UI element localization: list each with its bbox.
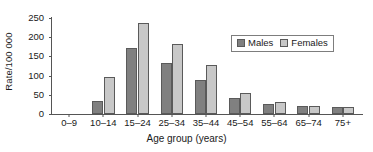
y-axis-tick-label: 0: [0, 109, 44, 119]
bar-males: [229, 98, 240, 114]
y-axis-tick-mark: [49, 95, 52, 96]
bar-males: [263, 104, 274, 114]
bar-males: [332, 107, 343, 114]
x-axis-tick-label: 25–34: [159, 118, 185, 128]
bar-chart-figure: Rate/100 000 050100150200250 Age group (…: [0, 0, 373, 152]
plot-area: 050100150200250: [52, 18, 360, 114]
bar-females: [172, 44, 183, 114]
bar-females: [206, 65, 217, 114]
legend-swatch-males-icon: [237, 39, 245, 47]
legend-label-females: Females: [291, 38, 327, 48]
y-axis-tick-mark: [49, 114, 52, 115]
legend-entry-females: Females: [280, 38, 327, 48]
bar-males: [195, 80, 206, 114]
x-axis-line: [51, 114, 363, 115]
y-axis-tick-mark: [49, 18, 52, 19]
bar-females: [309, 106, 320, 114]
x-axis-tick-label: 10–14: [90, 118, 116, 128]
y-axis-tick-label: 200: [0, 32, 44, 42]
y-axis-tick-label: 100: [0, 71, 44, 81]
x-axis-tick-label: 0–9: [61, 118, 77, 128]
bar-females: [240, 93, 251, 114]
bar-males: [297, 106, 308, 114]
x-axis-tick-label: 65–74: [295, 118, 321, 128]
x-axis-tick-label: 35–44: [193, 118, 219, 128]
x-axis-tick-label: 55–64: [261, 118, 287, 128]
bar-females: [343, 107, 354, 114]
x-axis-tick-label: 45–54: [227, 118, 253, 128]
x-axis-tick-label: 15–24: [124, 118, 150, 128]
y-axis-tick-label: 50: [0, 90, 44, 100]
x-axis-label: Age group (years): [0, 133, 373, 144]
x-axis-tick-label: 75+: [335, 118, 351, 128]
y-axis-tick-label: 250: [0, 13, 44, 23]
y-axis-tick-label: 150: [0, 52, 44, 62]
legend-entry-males: Males: [237, 38, 273, 48]
bar-females: [104, 77, 115, 114]
bar-males: [161, 63, 172, 114]
y-axis-tick-mark: [49, 76, 52, 77]
chart-legend: Males Females: [231, 35, 334, 52]
legend-label-males: Males: [248, 38, 273, 48]
legend-swatch-females-icon: [280, 39, 288, 47]
bar-females: [275, 102, 286, 114]
bar-males: [92, 101, 103, 114]
y-axis-tick-mark: [49, 37, 52, 38]
bar-males: [126, 48, 137, 114]
bar-females: [138, 23, 149, 114]
y-axis-tick-mark: [49, 56, 52, 57]
